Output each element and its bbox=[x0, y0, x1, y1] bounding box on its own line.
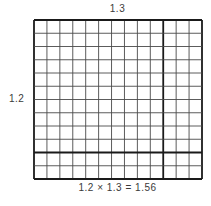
multiplication-grid bbox=[0, 0, 211, 206]
equation-label: 1.2 × 1.3 = 1.56 bbox=[0, 182, 211, 193]
